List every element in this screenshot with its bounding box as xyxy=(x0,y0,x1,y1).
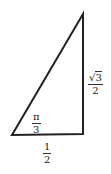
vertical-side-label: √3 2 xyxy=(88,73,103,96)
label-numerator: 1 xyxy=(43,142,51,152)
triangle-shape xyxy=(12,14,83,135)
label-denominator: 3 xyxy=(32,125,40,135)
label-numerator: √3 xyxy=(88,73,103,83)
angle-label: π 3 xyxy=(32,112,41,135)
label-denominator: 2 xyxy=(91,86,99,96)
base-label: 1 2 xyxy=(43,142,51,165)
label-numerator: π xyxy=(32,112,41,122)
label-denominator: 2 xyxy=(43,155,51,165)
